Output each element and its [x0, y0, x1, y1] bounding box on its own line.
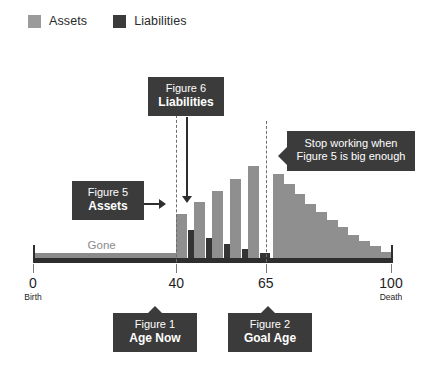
axis-tick-label: 40	[156, 275, 196, 291]
bar-assets	[305, 204, 316, 258]
callout-age-now-line1: Figure 1	[121, 318, 189, 331]
callout-assets-line2: Assets	[80, 199, 136, 214]
marker-goal-age	[266, 121, 267, 262]
callout-goal-age-pointer-icon	[261, 306, 275, 313]
bar-assets	[194, 202, 205, 258]
axis-end-cap	[391, 245, 393, 263]
callout-liabilities-line2: Liabilities	[156, 95, 216, 110]
callout-liabilities-line1: Figure 6	[156, 82, 216, 95]
callout-stop-working-line1: Stop working when	[293, 137, 409, 150]
callout-age-now-line2: Age Now	[121, 331, 189, 346]
bar-assets	[316, 212, 327, 258]
connector-liabilities	[186, 117, 188, 197]
bar-assets	[230, 179, 241, 258]
axis-tick-label: 65	[246, 275, 286, 291]
axis-tick	[33, 264, 34, 273]
bar-assets	[359, 241, 370, 258]
callout-age-now: Figure 1 Age Now	[113, 313, 197, 352]
axis-tick-sublabel: Death	[371, 292, 411, 302]
callout-goal-age: Figure 2 Goal Age	[228, 313, 312, 352]
bar-assets	[327, 220, 338, 258]
timeline-axis	[33, 258, 391, 263]
marker-age-now	[176, 110, 177, 262]
bar-assets	[370, 246, 381, 258]
bar-assets	[284, 184, 295, 258]
bar-assets	[273, 174, 284, 258]
callout-assets-line1: Figure 5	[80, 186, 136, 199]
bar-assets	[294, 194, 305, 258]
callout-liabilities: Figure 6 Liabilities	[148, 77, 224, 116]
callout-goal-age-line1: Figure 2	[236, 318, 304, 331]
axis-tick-label: 0	[13, 275, 53, 291]
callout-goal-age-line2: Goal Age	[236, 331, 304, 346]
callout-stop-working: Stop working when Figure 5 is big enough	[287, 131, 415, 171]
callout-assets: Figure 5 Assets	[72, 181, 144, 220]
bar-assets	[248, 166, 259, 258]
bar-assets	[176, 214, 187, 258]
axis-tick	[391, 264, 392, 273]
arrowhead-liabilities-icon	[182, 196, 192, 203]
bar-assets	[212, 191, 223, 258]
axis-tick	[176, 264, 177, 273]
connector-assets	[144, 203, 160, 205]
bar-assets	[348, 235, 359, 258]
arrowhead-assets-icon	[159, 199, 166, 209]
callout-stop-working-pointer-icon	[278, 147, 287, 165]
axis-end-cap	[33, 245, 35, 263]
callout-age-now-pointer-icon	[148, 306, 162, 313]
callout-stop-working-line2: Figure 5 is big enough	[293, 150, 409, 163]
bar-assets	[337, 227, 348, 258]
plot-area	[0, 0, 425, 379]
axis-tick	[266, 264, 267, 273]
axis-tick-sublabel: Birth	[13, 292, 53, 302]
gone-label: Gone	[88, 239, 116, 251]
retirement-chart: Assets Liabilities Gone 0Birth4065100Dea…	[0, 0, 425, 379]
axis-tick-label: 100	[371, 275, 411, 291]
